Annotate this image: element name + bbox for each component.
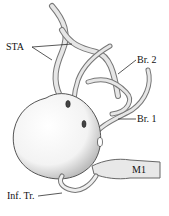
m1-vessel [92, 159, 160, 179]
vessel-drawing [0, 0, 169, 216]
label-inferior-trunk: Inf. Tr. [7, 191, 35, 201]
aneurysm-sac [13, 94, 100, 179]
label-br2: Br. 2 [137, 55, 156, 65]
label-br1: Br. 1 [137, 114, 156, 124]
label-sta: STA [6, 42, 24, 52]
br1-vessel [88, 80, 130, 114]
label-m1: M1 [132, 165, 146, 175]
aneurysm-bypass-illustration: STA Br. 2 Br. 1 M1 Inf. Tr. [0, 0, 169, 216]
